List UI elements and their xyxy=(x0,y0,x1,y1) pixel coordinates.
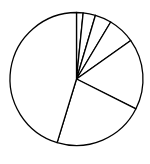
pie-slices xyxy=(10,13,143,146)
pie-chart xyxy=(0,0,150,164)
